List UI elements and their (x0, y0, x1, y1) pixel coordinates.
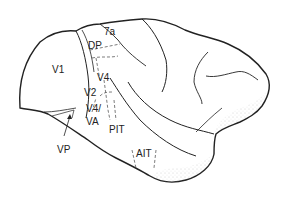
label-v4: V4 (97, 73, 109, 83)
label-v4-lower: V4/ (86, 104, 101, 114)
label-dp: DP (88, 41, 102, 51)
label-ait: AIT (136, 149, 152, 159)
label-7a: 7a (104, 27, 115, 37)
label-pit: PIT (109, 125, 125, 135)
label-v2: V2 (84, 88, 96, 98)
label-v1: V1 (52, 65, 64, 75)
brain-diagram (0, 0, 287, 204)
label-va: VA (86, 117, 99, 127)
label-vp: VP (57, 145, 70, 155)
